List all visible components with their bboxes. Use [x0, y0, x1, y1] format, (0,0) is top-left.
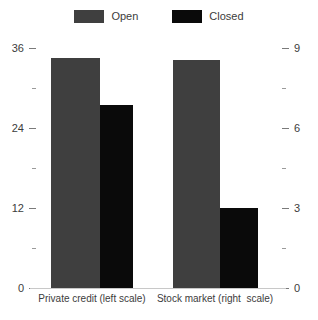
- bar-closed-group-0: [100, 105, 133, 288]
- tick-mark: [282, 248, 286, 249]
- axis-right-tick-1.5: 1.5: [282, 242, 286, 254]
- tick-label: 12: [12, 203, 24, 214]
- axis-left-tick-36: 36: [12, 42, 36, 54]
- tick-label: 24: [12, 123, 24, 134]
- tick-mark: [282, 48, 289, 49]
- legend-entry-closed: Closed: [172, 10, 243, 23]
- chart-legend: Open Closed: [0, 10, 318, 23]
- axis-baseline: [30, 288, 286, 289]
- tick-mark: [29, 208, 36, 209]
- bar-closed-group-1: [220, 208, 258, 288]
- bar-open-group-1: [173, 60, 220, 288]
- axis-right-tick-3: 3: [282, 202, 300, 214]
- tick-mark: [282, 128, 289, 129]
- tick-mark: [282, 88, 286, 89]
- tick-label: 6: [294, 123, 300, 134]
- tick-mark: [29, 48, 36, 49]
- axis-left-tick-12: 12: [12, 202, 36, 214]
- legend-swatch-closed: [172, 10, 202, 23]
- legend-entry-open: Open: [74, 10, 138, 23]
- axis-right-tick-6: 6: [282, 122, 300, 134]
- bar-chart: Open Closed 363024181260 97.564.531.50 P…: [0, 0, 318, 320]
- tick-label: 0: [294, 283, 300, 294]
- legend-swatch-open: [74, 10, 104, 23]
- y-axis-right: 97.564.531.50: [282, 0, 318, 320]
- x-axis-label-private-credit: Private credit (left scale): [22, 293, 162, 305]
- tick-label: 36: [12, 43, 24, 54]
- bar-open-group-0: [51, 58, 100, 288]
- tick-mark: [282, 208, 289, 209]
- axis-right-tick-9: 9: [282, 42, 300, 54]
- axis-right-tick-4.5: 4.5: [282, 162, 286, 174]
- tick-label: 9: [294, 43, 300, 54]
- axis-left-tick-24: 24: [12, 122, 36, 134]
- tick-mark: [29, 128, 36, 129]
- tick-mark: [282, 168, 286, 169]
- tick-label: 3: [294, 203, 300, 214]
- plot-area: [36, 48, 282, 288]
- legend-label-closed: Closed: [209, 11, 243, 22]
- x-axis-label-stock-market: Stock market (right scale): [145, 293, 285, 305]
- y-axis-left: 363024181260: [0, 0, 36, 320]
- axis-right-tick-7.5: 7.5: [282, 82, 286, 94]
- tick-label: 0: [18, 283, 24, 294]
- legend-label-open: Open: [111, 11, 138, 22]
